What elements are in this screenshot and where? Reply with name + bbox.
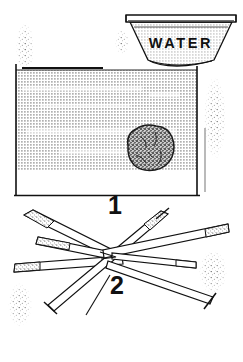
sticks-panel [4,208,232,332]
stick-5-end [205,224,229,237]
bowl-rim [126,15,236,22]
panel-2-number: 2 [110,273,124,298]
speckle-bowl-left [112,26,134,60]
speckle-mid-right [196,248,232,298]
tank [14,64,205,196]
stick-6 [112,253,196,268]
speckle-right [200,72,232,164]
bowl-label-water: WATER [149,35,213,51]
panel-1-number: 1 [108,193,122,218]
stick-3-end [14,262,40,272]
water-tank-panel: WATER [10,15,236,196]
stick-4-end [144,211,168,230]
rock-body [128,125,174,170]
speckle-lower-left [4,280,36,332]
rock [128,125,174,170]
stick-6-end [176,260,196,268]
illustration-svg: WATER [0,0,243,362]
stick-1-end [24,210,54,228]
illustration-canvas: WATER [0,0,243,362]
